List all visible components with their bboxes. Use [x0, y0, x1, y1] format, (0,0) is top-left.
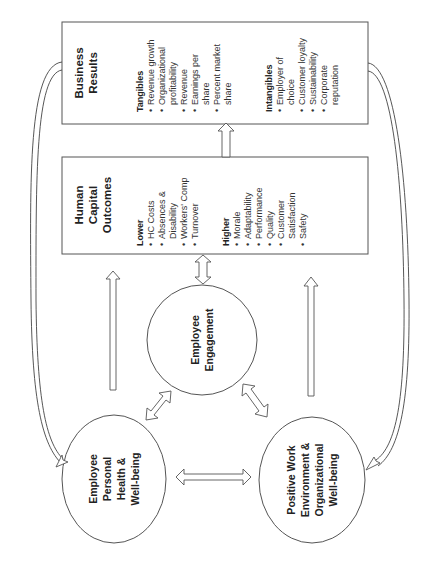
bullet-icon: •	[275, 109, 285, 112]
higher-item: Adaptability	[243, 192, 253, 239]
health-label-line: Health &	[115, 457, 127, 500]
lower-heading: Lower	[135, 219, 145, 246]
lower-item: Absences &	[157, 191, 167, 239]
higher-item: Performance	[254, 187, 264, 239]
diagram-canvas: BusinessResultsTangibles•Revenue growth•…	[0, 0, 426, 583]
bullet-icon: •	[190, 243, 200, 246]
arrow-workenv-engagement-bidirectional	[242, 384, 268, 417]
tangibles-item: Revenue growth	[146, 39, 156, 105]
work_env-label-line: Well-being	[327, 454, 339, 507]
bullet-icon: •	[298, 243, 308, 246]
bullet-icon: •	[254, 243, 264, 246]
bullet-icon: •	[212, 109, 222, 112]
curved-arrow-business-to-workenv	[366, 63, 409, 470]
engagement-label-line: Engagement	[203, 308, 215, 372]
bullet-icon: •	[146, 243, 156, 246]
bullet-icon: •	[190, 109, 200, 112]
lower-item: HC Costs	[146, 200, 156, 239]
business-results-title-line: Results	[87, 52, 99, 94]
employee-health-node	[62, 415, 166, 543]
bullet-icon: •	[265, 243, 275, 246]
bullet-icon: •	[179, 109, 189, 112]
tangibles-item: Revenue	[179, 69, 189, 105]
health-label-line: Well-being	[129, 453, 141, 506]
arrow-health-to-hco	[106, 271, 120, 390]
bullet-icon: •	[319, 109, 329, 112]
arrow-health-workenv-bidirectional	[176, 469, 251, 485]
arrow-work-env-to-hco	[304, 277, 318, 396]
higher-item: Safety	[298, 213, 308, 239]
positive-work-environment-node	[259, 417, 365, 543]
arrow-engagement-hco-bidirectional	[195, 255, 211, 284]
intangibles-item: Corporate	[319, 65, 329, 105]
tangibles-item: share	[223, 82, 233, 105]
health-label-line: Personal	[101, 457, 113, 501]
business-results-title-line: Business	[73, 47, 85, 98]
lower-item: Turnover	[190, 203, 200, 239]
hco-title-line: Outcomes	[101, 177, 113, 233]
bullet-icon: •	[276, 243, 286, 246]
arrow-health-engagement-bidirectional	[146, 391, 171, 420]
employee-engagement-node	[147, 285, 257, 395]
higher-item: Satisfaction	[287, 192, 297, 239]
higher-item: Morale	[232, 211, 242, 239]
arrow-hco-to-business-results	[218, 123, 234, 157]
bullet-icon: •	[157, 243, 167, 246]
hco-title-line: Capital	[87, 186, 99, 224]
node-labels: EmployeeEngagementEmployeePersonalHealth…	[87, 308, 339, 517]
bullet-icon: •	[243, 243, 253, 246]
intangibles-item: reputation	[330, 65, 340, 105]
engagement-label-line: Employee	[189, 315, 201, 365]
higher-item: Quality	[265, 210, 275, 239]
health-label-line: Employee	[87, 454, 99, 504]
lower-item: Workers' Comp	[179, 177, 189, 239]
intangibles-heading: Intangibles	[264, 64, 274, 112]
bullet-icon: •	[157, 109, 167, 112]
tangibles-heading: Tangibles	[135, 71, 145, 112]
bullet-icon: •	[146, 109, 156, 112]
intangibles-item: Employer of	[275, 56, 285, 105]
tangibles-item: share	[201, 82, 211, 105]
tangibles-item: Earnings per	[190, 54, 200, 105]
work_env-label-line: Positive Work	[285, 445, 297, 514]
tangibles-item: Organizational	[157, 47, 167, 105]
tangibles-item: profitability	[168, 61, 178, 105]
bullet-icon: •	[297, 109, 307, 112]
tangibles-item: Percent market	[212, 43, 222, 105]
higher-heading: Higher	[221, 217, 231, 246]
intangibles-item: Sustainability	[308, 51, 318, 105]
work_env-label-line: Environment &	[299, 442, 311, 517]
bullet-icon: •	[179, 243, 189, 246]
bullet-icon: •	[232, 243, 242, 246]
hco-title-line: Human	[73, 186, 85, 225]
lower-item: Disability	[168, 202, 178, 239]
intangibles-item: choice	[286, 79, 296, 105]
intangibles-item: Customer loyalty	[297, 37, 307, 105]
work_env-label-line: Organizational	[313, 443, 325, 516]
bullet-icon: •	[308, 109, 318, 112]
higher-item: Customer	[276, 200, 286, 239]
